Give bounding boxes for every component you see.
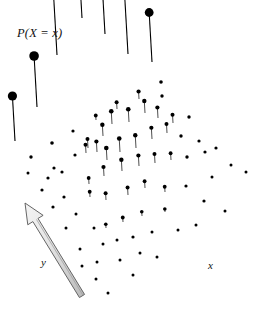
lattice-dot	[40, 188, 43, 191]
stem-head-marker	[117, 136, 122, 141]
stem-head-marker	[133, 133, 137, 137]
stem-head-marker	[143, 179, 147, 183]
stem-head-marker	[104, 146, 109, 151]
stem-head-marker	[115, 100, 119, 104]
stem-head-marker	[126, 107, 131, 112]
lattice-dot	[119, 259, 122, 262]
stem-head-marker	[136, 89, 140, 93]
stem-head-marker	[164, 122, 168, 126]
lattice-dot	[96, 261, 99, 264]
stem-head-marker	[136, 153, 140, 157]
stem-head-marker	[109, 109, 114, 114]
lattice-dot	[187, 115, 190, 118]
lattice-dot	[75, 213, 78, 216]
stem-head-marker	[171, 113, 175, 117]
lattice-dot	[29, 155, 32, 158]
lattice-dot	[79, 248, 82, 251]
stem-head-marker	[155, 105, 159, 109]
lattice-dot	[50, 141, 54, 145]
lattice-dot	[93, 227, 96, 230]
stem-head-marker	[104, 222, 108, 226]
stem-line	[125, 0, 128, 54]
stem-line	[34, 56, 37, 107]
lattice-dot	[51, 205, 54, 208]
stem-line	[78, 0, 82, 18]
lattice-dot	[116, 239, 119, 242]
stem-head-marker	[126, 186, 130, 190]
lattice-dot	[179, 134, 182, 137]
plot-canvas	[0, 0, 253, 320]
lattice-dot	[160, 94, 163, 97]
pmf-label: P(X = x)	[17, 26, 62, 41]
lattice-dot	[65, 227, 68, 230]
stem-head-marker	[88, 190, 92, 194]
stem-head-marker	[169, 151, 173, 155]
lattice-dot	[184, 184, 187, 187]
lattice-dot	[202, 199, 205, 202]
lattice-dot	[211, 176, 214, 179]
lattice-dot	[156, 256, 159, 259]
pmf-stem-plot-figure: P(X = x) y x	[0, 0, 253, 320]
stem-head-marker	[163, 207, 167, 211]
lattice-dot	[102, 243, 105, 246]
lattice-dot	[159, 80, 163, 84]
stem-head-marker	[145, 8, 154, 17]
lattice-dot	[139, 252, 142, 255]
stem-line	[101, 0, 105, 34]
lattice-dot	[245, 171, 248, 174]
lattice-dot	[46, 176, 49, 179]
y-axis-arrow-icon	[25, 203, 85, 298]
lattice-dot	[230, 164, 233, 167]
lattice-dot	[224, 210, 227, 213]
stem-head-marker	[94, 114, 98, 118]
lattice-dot	[73, 153, 76, 156]
lattice-dot	[131, 235, 134, 238]
lattice-dot	[197, 139, 200, 142]
stem-head-marker	[149, 126, 153, 130]
stem-head-marker	[94, 139, 98, 143]
lattice-dot	[132, 274, 135, 277]
stem-head-marker	[8, 91, 17, 100]
lattice-dot	[81, 265, 84, 268]
lattice-dot	[95, 278, 98, 281]
lattice-dot	[107, 292, 110, 295]
stem-head-marker	[29, 51, 39, 61]
lattice-dot	[203, 150, 206, 153]
stem-head-marker	[121, 216, 125, 220]
lattice-dot	[62, 195, 65, 198]
stem-head-marker	[142, 99, 146, 103]
stem-head-marker	[100, 123, 104, 127]
stem-line	[149, 13, 152, 63]
lattice-dot	[195, 224, 198, 227]
lattice-dot	[27, 172, 30, 175]
lattice-dot	[52, 166, 55, 169]
lattice-dot	[177, 229, 180, 232]
stem-head-marker	[152, 152, 156, 156]
stem-head-marker	[119, 158, 123, 162]
stem-line	[12, 96, 15, 141]
lattice-dot	[151, 231, 154, 234]
stem-head-marker	[87, 176, 91, 180]
y-axis-label: y	[41, 256, 46, 268]
stem-head-marker	[163, 185, 167, 189]
x-axis-label: x	[208, 259, 213, 271]
stem-head-marker	[101, 165, 105, 169]
stem-head-marker	[84, 143, 88, 147]
stem-head-marker	[104, 191, 108, 195]
lattice-dot	[71, 129, 74, 132]
lattice-dot	[60, 170, 63, 173]
lattice-dot	[214, 146, 217, 149]
stem-head-marker	[85, 137, 89, 141]
lattice-dot	[185, 155, 188, 158]
stem-head-marker	[140, 210, 144, 214]
